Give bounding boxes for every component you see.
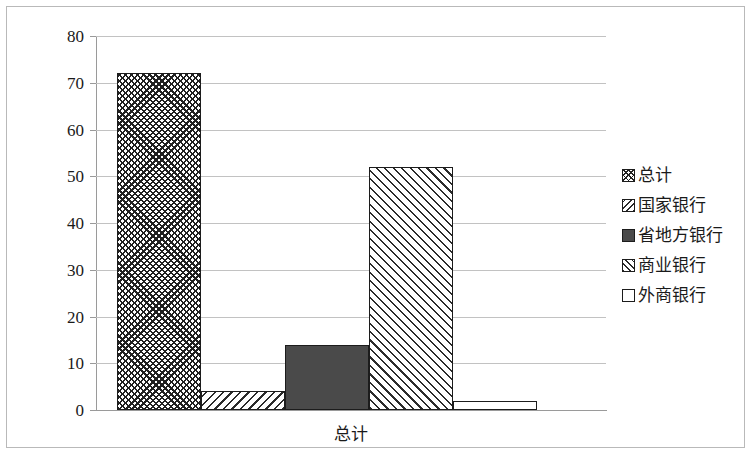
legend-swatch-icon bbox=[622, 229, 635, 242]
legend-item-外商银行[interactable]: 外商银行 bbox=[622, 280, 746, 310]
y-axis-tick-label: 0 bbox=[76, 402, 85, 419]
y-axis-tick bbox=[90, 223, 96, 224]
legend-swatch-icon bbox=[622, 199, 635, 212]
legend-item-label: 省地方银行 bbox=[638, 227, 723, 244]
x-axis-label: 总计 bbox=[96, 420, 606, 445]
legend-item-省地方银行[interactable]: 省地方银行 bbox=[622, 220, 746, 250]
plot-area bbox=[96, 36, 606, 410]
y-axis-tick-label: 80 bbox=[67, 28, 84, 45]
y-axis-tick-label: 70 bbox=[67, 75, 84, 92]
bar-国家银行[interactable] bbox=[201, 391, 285, 410]
legend-swatch-icon bbox=[622, 169, 635, 182]
legend-swatch-icon bbox=[622, 289, 635, 302]
legend-item-label: 总计 bbox=[638, 167, 672, 184]
y-axis-tick bbox=[90, 363, 96, 364]
y-axis-tick bbox=[90, 130, 96, 131]
y-axis-tick-label: 60 bbox=[67, 122, 84, 139]
bar-省地方银行[interactable] bbox=[285, 345, 369, 410]
legend-item-国家银行[interactable]: 国家银行 bbox=[622, 190, 746, 220]
bar-总计[interactable] bbox=[117, 73, 201, 410]
chart-legend: 总计国家银行省地方银行商业银行外商银行 bbox=[622, 160, 746, 310]
y-axis-tick-label: 30 bbox=[67, 262, 84, 279]
legend-item-label: 商业银行 bbox=[638, 257, 706, 274]
bar-商业银行[interactable] bbox=[369, 167, 453, 410]
y-axis-tick bbox=[90, 36, 96, 37]
y-axis-tick bbox=[90, 176, 96, 177]
legend-swatch-icon bbox=[622, 259, 635, 272]
y-axis-tick bbox=[90, 270, 96, 271]
y-axis-tick-label: 50 bbox=[67, 168, 84, 185]
legend-item-总计[interactable]: 总计 bbox=[622, 160, 746, 190]
legend-item-商业银行[interactable]: 商业银行 bbox=[622, 250, 746, 280]
legend-item-label: 国家银行 bbox=[638, 197, 706, 214]
bar-chart: 01020304050607080 总计 总计国家银行省地方银行商业银行外商银行 bbox=[0, 0, 751, 454]
y-axis-tick-label: 10 bbox=[67, 355, 84, 372]
y-axis-tick bbox=[90, 83, 96, 84]
bar-外商银行[interactable] bbox=[453, 401, 537, 410]
y-axis-tick bbox=[90, 410, 96, 411]
legend-item-label: 外商银行 bbox=[638, 287, 706, 304]
y-axis-tick bbox=[90, 317, 96, 318]
y-axis-tick-label: 40 bbox=[67, 215, 84, 232]
y-axis-tick-label: 20 bbox=[67, 309, 84, 326]
gridline bbox=[96, 36, 606, 37]
y-axis-tick-labels: 01020304050607080 bbox=[20, 0, 84, 454]
x-axis-line bbox=[96, 410, 607, 411]
